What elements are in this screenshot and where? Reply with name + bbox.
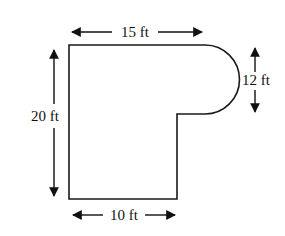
- diagram-canvas: 15 ft 12 ft 20 ft 10 ft: [0, 0, 285, 236]
- left-dimension: 20 ft: [31, 50, 60, 196]
- right-dimension: 12 ft: [242, 48, 271, 112]
- top-dimension: 15 ft: [72, 24, 202, 40]
- right-dimension-label: 12 ft: [242, 72, 271, 88]
- left-dimension-label: 20 ft: [31, 108, 60, 124]
- top-dimension-label: 15 ft: [121, 24, 150, 40]
- shape-outline: [69, 45, 240, 199]
- bottom-dimension-label: 10 ft: [110, 207, 139, 223]
- bottom-dimension: 10 ft: [73, 207, 175, 223]
